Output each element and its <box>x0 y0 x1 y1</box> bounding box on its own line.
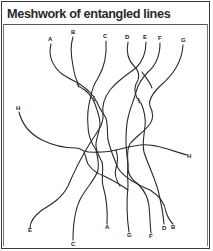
label-bottom-f: F <box>149 233 153 239</box>
tangle-segment <box>142 72 152 88</box>
label-top-g: G <box>181 37 186 43</box>
label-right-h: H <box>187 153 191 159</box>
line-g <box>127 45 183 232</box>
entangled-lines-diagram: A B C D E F G H H E C A G F D B <box>0 0 213 251</box>
label-bottom-b: B <box>171 224 176 230</box>
label-top-b: B <box>71 29 76 35</box>
label-top-d: D <box>125 34 130 40</box>
line-b <box>71 37 173 224</box>
label-top-f: F <box>158 35 162 41</box>
label-bottom-d: D <box>162 225 167 231</box>
label-bottom-e: E <box>28 227 32 233</box>
label-bottom-c: C <box>71 241 76 247</box>
line-a <box>50 44 107 224</box>
label-bottom-a: A <box>105 224 110 230</box>
line-c <box>73 41 106 240</box>
label-top-a: A <box>48 36 53 42</box>
label-bottom-g: G <box>127 232 132 238</box>
label-top-c: C <box>103 33 108 39</box>
label-left-h: H <box>16 105 20 111</box>
label-top-e: E <box>143 34 147 40</box>
line-e <box>30 42 146 228</box>
